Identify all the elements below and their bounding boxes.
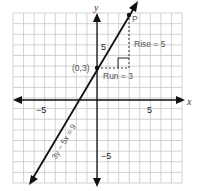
- x-tick-neg5: −5: [36, 105, 46, 115]
- intercept-label: (0,3): [72, 63, 90, 73]
- x-axis-right-arrow-icon: [176, 96, 185, 104]
- run-label: Run = 3: [103, 71, 133, 81]
- y-tick-neg5: −5: [101, 151, 111, 161]
- x-axis-left-arrow-icon: [13, 96, 22, 104]
- line-up-arrow-icon: [129, 1, 138, 12]
- x-axis: [13, 96, 185, 104]
- y-axis-label: y: [93, 2, 99, 13]
- intercept-point: [95, 66, 99, 70]
- line-down-arrow-icon: [29, 175, 38, 185]
- point-p-label: P: [132, 14, 138, 24]
- equation-line: [29, 1, 138, 185]
- coordinate-graph: x y −5 5 5 −5 (0,3) P Rise = 5 Run = 3 3…: [0, 0, 199, 191]
- rise-label: Rise = 5: [134, 39, 166, 49]
- x-axis-label: x: [186, 96, 192, 107]
- y-axis-down-arrow-icon: [93, 178, 101, 187]
- y-axis-up-arrow-icon: [93, 13, 101, 22]
- point-p: [127, 13, 131, 17]
- x-tick-5: 5: [147, 105, 152, 115]
- y-tick-5: 5: [101, 42, 106, 52]
